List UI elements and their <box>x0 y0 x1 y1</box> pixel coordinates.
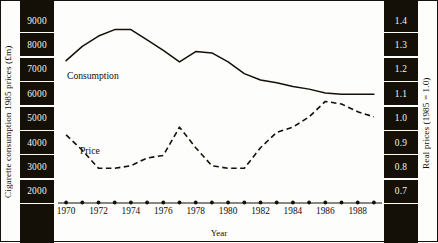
year-marker-3 <box>113 201 117 205</box>
y-right-tick-2: 1.2 <box>384 58 418 81</box>
year-marker-5 <box>145 201 149 205</box>
y-left-tick-2: 7000 <box>20 58 54 81</box>
series-line-price <box>66 101 374 168</box>
series-label-price: Price <box>80 145 100 156</box>
y-left-tick-4: 5000 <box>20 107 54 130</box>
series-label-consumption: Consumption <box>67 70 119 81</box>
y-left-tick-3: 6000 <box>20 82 54 105</box>
x-tick-label-4: 1978 <box>186 206 205 216</box>
year-marker-14 <box>291 201 295 205</box>
y-right-tick-7: 0.7 <box>384 180 418 203</box>
y-left-tick-0: 9000 <box>20 9 54 32</box>
y-right-tick-1: 1.3 <box>384 33 418 56</box>
x-tick-label-3: 1976 <box>154 206 173 216</box>
x-tick-label-5: 1980 <box>219 206 238 216</box>
y-right-tick-5: 0.9 <box>384 131 418 154</box>
year-marker-2 <box>97 201 101 205</box>
year-marker-1 <box>80 201 84 205</box>
x-tick-label-0: 1970 <box>57 206 76 216</box>
plot-svg <box>58 5 382 203</box>
y-left-tick-filler-top <box>20 1 54 9</box>
x-tick-label-9: 1988 <box>348 206 367 216</box>
y-left-tick-1: 8000 <box>20 33 54 56</box>
y-axis-left-tick-column: 90008000700060005000400030002000 <box>20 1 54 241</box>
y-axis-right-tick-column: 1.41.31.21.11.00.90.80.7 <box>384 1 418 241</box>
y-left-tick-7: 2000 <box>20 180 54 203</box>
year-marker-17 <box>340 201 344 205</box>
year-marker-0 <box>64 201 68 205</box>
x-tick-label-7: 1984 <box>284 206 303 216</box>
y-right-tick-filler-top <box>384 1 418 9</box>
y-left-tick-6: 3000 <box>20 155 54 178</box>
year-marker-10 <box>226 201 230 205</box>
year-marker-11 <box>242 201 246 205</box>
year-marker-16 <box>323 201 327 205</box>
year-marker-9 <box>210 201 214 205</box>
year-marker-19 <box>372 201 376 205</box>
x-tick-label-6: 1982 <box>251 206 270 216</box>
y-left-tick-5: 4000 <box>20 131 54 154</box>
y-right-tick-4: 1.0 <box>384 107 418 130</box>
year-marker-4 <box>129 201 133 205</box>
year-marker-12 <box>259 201 263 205</box>
year-marker-18 <box>356 201 360 205</box>
y-right-tick-6: 0.8 <box>384 155 418 178</box>
year-marker-13 <box>275 201 279 205</box>
x-tick-label-2: 1974 <box>122 206 141 216</box>
plot-area <box>58 5 382 203</box>
year-marker-8 <box>194 201 198 205</box>
x-axis-title: Year <box>1 228 437 238</box>
year-marker-7 <box>178 201 182 205</box>
x-tick-label-8: 1986 <box>316 206 335 216</box>
x-tick-label-1: 1972 <box>89 206 108 216</box>
year-marker-15 <box>307 201 311 205</box>
series-line-consumption <box>66 30 374 95</box>
y-right-tick-0: 1.4 <box>384 9 418 32</box>
y-right-tick-3: 1.1 <box>384 82 418 105</box>
x-axis-tick-labels: 1970197219741976197819801982198419861988 <box>58 206 382 220</box>
y-axis-left-title: Cigarette consumption 1985 prices (£m) <box>3 9 17 235</box>
year-marker-6 <box>161 201 165 205</box>
y-axis-right-title: Real prices (1985 = 1.0) <box>421 25 435 221</box>
